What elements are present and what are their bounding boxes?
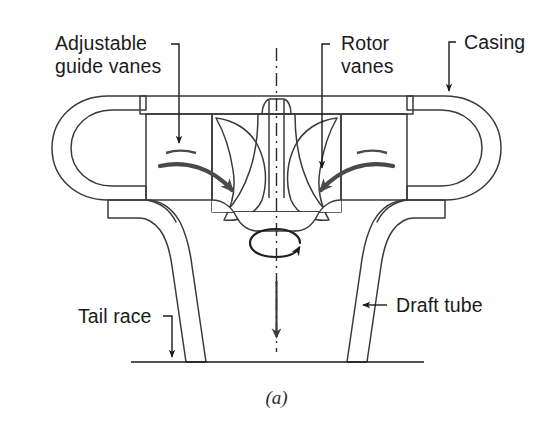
draft-tube-left-wall <box>108 200 206 362</box>
label-rotor-vanes-line1: Rotor <box>341 32 390 54</box>
leader-tail-race <box>163 316 172 357</box>
leader-guide-vanes <box>171 44 179 143</box>
label-draft-tube: Draft tube <box>396 294 483 316</box>
draft-tube-left <box>108 200 206 362</box>
figure-caption: (a) <box>265 387 287 409</box>
volute-right-shell <box>407 96 501 200</box>
casing-volute-left <box>52 96 146 200</box>
inflow-arrow-left <box>160 164 232 190</box>
inflow-arrow-right <box>321 164 393 190</box>
francis-turbine-figure: Adjustable guide vanes Rotor vanes Casin… <box>0 0 553 424</box>
label-rotor-vanes-line2: vanes <box>341 55 394 77</box>
guide-vane-left-blade <box>166 151 196 153</box>
leader-casing <box>449 42 456 91</box>
draft-tube-right-wall <box>347 200 445 362</box>
label-tail-race: Tail race <box>78 305 152 327</box>
turbine-diagram-svg: Adjustable guide vanes Rotor vanes Casin… <box>0 0 553 424</box>
label-guide-vanes-line2: guide vanes <box>55 55 161 77</box>
guide-vane-right-blade <box>357 151 387 153</box>
rotation-indicator <box>250 229 300 257</box>
guide-vane-block-right <box>341 114 407 200</box>
casing-volute-right <box>407 96 501 200</box>
label-guide-vanes-line1: Adjustable <box>55 32 147 54</box>
guide-vane-right-body <box>341 114 407 200</box>
label-casing: Casing <box>464 31 525 53</box>
leader-rotor-vanes <box>322 44 330 168</box>
volute-left-shell <box>52 96 146 200</box>
rotation-arrow-ellipse <box>250 229 300 257</box>
draft-tube-right <box>347 200 445 362</box>
